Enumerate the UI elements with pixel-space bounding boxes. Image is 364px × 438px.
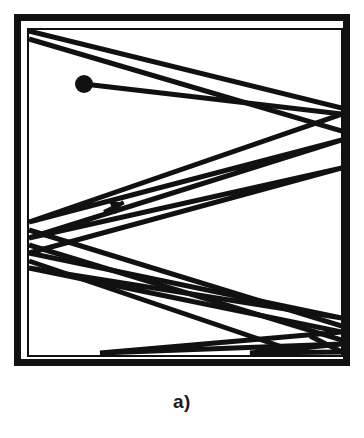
trajectory-path <box>29 31 342 353</box>
trajectory-segment <box>29 245 342 340</box>
billiard-diagram <box>0 0 364 438</box>
figure-caption-label: a) <box>0 390 364 414</box>
start-point-dot <box>75 75 93 93</box>
figure-container: a) <box>0 0 364 438</box>
